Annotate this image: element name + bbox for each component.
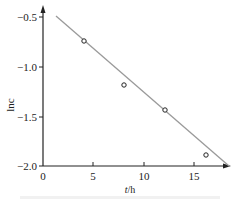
y-axis-label: lnc	[4, 98, 16, 112]
chart: −0.5 −1.0 −1.5 −2.0 lnc 0 5 10 15 t/h	[0, 0, 238, 203]
data-points	[82, 39, 208, 157]
x-tick-label: 0	[40, 170, 46, 182]
y-tick-label: −0.5	[17, 11, 37, 23]
x-axis: 0 5 10 15 t/h	[40, 162, 231, 195]
x-tick-label: 15	[189, 170, 201, 182]
x-tick-label: 5	[90, 170, 96, 182]
y-tick-label: −1.5	[17, 111, 37, 123]
x-axis-label: t/h	[125, 184, 136, 195]
data-point	[163, 108, 167, 112]
data-point	[204, 153, 208, 157]
faint-caption	[20, 196, 220, 199]
data-point	[82, 39, 86, 43]
data-point	[122, 83, 126, 87]
y-tick-label: −1.0	[17, 61, 37, 73]
x-tick-label: 10	[139, 170, 151, 182]
y-tick-label: −2.0	[17, 160, 37, 172]
y-axis: −0.5 −1.0 −1.5 −2.0 lnc	[4, 5, 46, 172]
fit-line	[56, 16, 229, 166]
